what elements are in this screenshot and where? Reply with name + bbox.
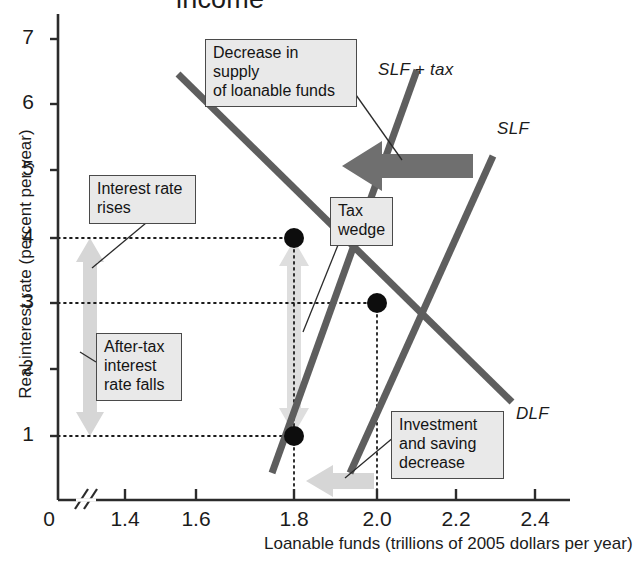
y-tick-label-5: 5 <box>6 156 34 180</box>
annotation-interest-rate-rises: Interest rate rises <box>89 175 196 224</box>
leader-tax-wedge <box>303 240 340 332</box>
x-tick-label-2-4: 2.4 <box>507 507 563 531</box>
quantity-decrease-arrow <box>306 465 374 497</box>
annotation-line: and saving <box>399 435 496 454</box>
annotation-line: rate falls <box>104 376 174 395</box>
annotation-line: decrease <box>399 454 496 473</box>
y-tick-label-1: 1 <box>6 422 34 446</box>
annotation-line: rises <box>97 199 188 218</box>
curve-label-slf: SLF <box>497 119 529 139</box>
annotation-line: Investment <box>399 416 496 435</box>
y-tick-label-4: 4 <box>6 224 34 248</box>
annotation-tax-wedge: Tax wedge <box>330 197 393 246</box>
x-axis-origin-label: 0 <box>21 507 77 531</box>
x-tick-label-2-0: 2.0 <box>349 507 405 531</box>
annotation-investment-and-saving-decrease: Investment and saving decrease <box>391 411 504 479</box>
curve-label-dlf: DLF <box>516 404 549 424</box>
x-axis-title: Loanable funds (trillions of 2005 dollar… <box>264 534 633 554</box>
x-tick-label-1-8: 1.8 <box>266 507 322 531</box>
y-tick-label-2: 2 <box>6 355 34 379</box>
annotation-line: interest <box>104 357 174 376</box>
annotation-line: Tax <box>338 202 385 221</box>
y-tick-label-6: 6 <box>6 90 34 114</box>
annotation-decrease-in-supply: Decrease in supply of loanable funds <box>205 39 357 107</box>
y-tick-label-7: 7 <box>6 25 34 49</box>
annotation-line: wedge <box>338 221 385 240</box>
annotation-after-tax-interest-rate-falls: After-tax interest rate falls <box>96 333 182 401</box>
leader-investment <box>345 437 394 478</box>
annotation-line: After-tax <box>104 338 174 357</box>
annotation-line: of loanable funds <box>213 82 349 101</box>
annotation-line: Decrease in supply <box>213 44 349 82</box>
page-title: income <box>176 0 264 15</box>
leader-interest-rises <box>92 223 146 268</box>
annotation-line: Interest rate <box>97 180 188 199</box>
x-tick-label-1-6: 1.6 <box>168 507 224 531</box>
curve-label-slf-plus-tax: SLF + tax <box>378 60 454 80</box>
equilibrium-dot-1-8-4 <box>284 228 304 248</box>
x-tick-label-2-2: 2.2 <box>428 507 484 531</box>
equilibrium-dot-2-0-3 <box>367 293 387 313</box>
y-tick-label-3: 3 <box>6 289 34 313</box>
equilibrium-dot-1-8-1 <box>284 426 304 446</box>
x-tick-label-1-4: 1.4 <box>97 507 153 531</box>
supply-shift-arrow <box>342 141 473 191</box>
